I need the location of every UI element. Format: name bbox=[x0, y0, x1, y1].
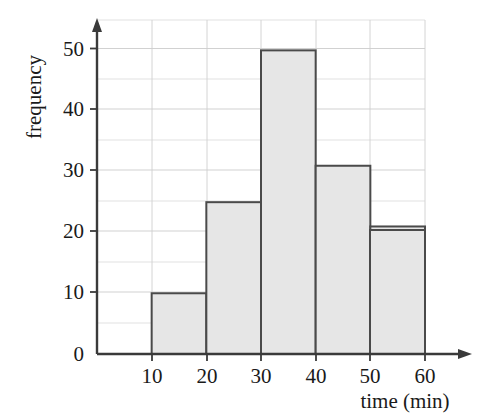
x-tick-label-30: 30 bbox=[251, 364, 272, 388]
y-tick-label-40: 40 bbox=[63, 97, 84, 121]
y-tick-label-50: 50 bbox=[63, 37, 84, 61]
x-axis-title: time (min) bbox=[360, 389, 449, 413]
bar-20-30[interactable] bbox=[261, 50, 316, 354]
x-tick-labels: 10 20 30 40 50 60 bbox=[142, 364, 436, 388]
x-tick-label-10: 10 bbox=[142, 364, 163, 388]
y-axis-title: frequency bbox=[22, 55, 46, 139]
x-tick-label-20: 20 bbox=[197, 364, 218, 388]
bar-10-20[interactable] bbox=[206, 202, 261, 354]
y-tick-label-20: 20 bbox=[63, 219, 84, 243]
y-tick-label-30: 30 bbox=[63, 158, 84, 182]
x-tick-label-50: 50 bbox=[360, 364, 381, 388]
chart-canvas: 50 40 30 20 10 0 10 20 30 40 50 60 frequ… bbox=[0, 0, 486, 416]
y-tick-labels: 50 40 30 20 10 0 bbox=[63, 37, 84, 366]
bar-0-10[interactable] bbox=[152, 293, 207, 354]
x-tick-label-40: 40 bbox=[306, 364, 327, 388]
x-tick-label-60: 60 bbox=[415, 364, 436, 388]
histogram-chart: 50 40 30 20 10 0 10 20 30 40 50 60 frequ… bbox=[0, 0, 486, 416]
y-tick-label-10: 10 bbox=[63, 280, 84, 304]
bar-series bbox=[152, 50, 425, 354]
bar-50-60[interactable] bbox=[370, 230, 425, 354]
y-tick-label-0: 0 bbox=[74, 342, 85, 366]
x-axis-arrow-icon bbox=[458, 349, 472, 359]
bar-30-40[interactable] bbox=[316, 166, 371, 354]
